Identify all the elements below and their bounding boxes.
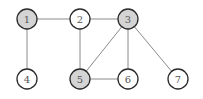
edge-3-7 bbox=[128, 19, 178, 79]
node-label: 3 bbox=[125, 14, 131, 25]
edges-layer bbox=[27, 19, 178, 79]
node-4: 4 bbox=[17, 69, 37, 89]
node-label: 4 bbox=[24, 74, 30, 85]
node-6: 6 bbox=[118, 69, 138, 89]
nodes-layer: 1234567 bbox=[17, 9, 188, 89]
node-7: 7 bbox=[168, 69, 188, 89]
edge-3-5 bbox=[80, 19, 128, 79]
node-label: 5 bbox=[77, 74, 83, 85]
node-label: 6 bbox=[125, 74, 131, 85]
graph-diagram: 1234567 bbox=[0, 0, 203, 99]
node-2: 2 bbox=[70, 9, 90, 29]
node-label: 7 bbox=[175, 74, 181, 85]
node-5: 5 bbox=[70, 69, 90, 89]
node-label: 1 bbox=[24, 14, 30, 25]
node-label: 2 bbox=[77, 14, 83, 25]
node-3: 3 bbox=[118, 9, 138, 29]
node-1: 1 bbox=[17, 9, 37, 29]
